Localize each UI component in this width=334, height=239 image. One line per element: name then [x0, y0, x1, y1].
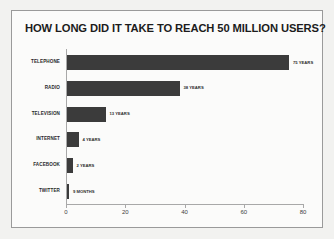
bar-category-label: FACEBOOK: [33, 162, 60, 167]
bar-value-label: 2 YEARS: [77, 163, 95, 168]
category-label-wrap: TELEVISION: [12, 102, 66, 128]
bar-twitter: [67, 184, 69, 199]
bar-category-label: RADIO: [45, 85, 60, 90]
bar-value-label: 75 YEARS: [293, 60, 313, 65]
bar-facebook: [67, 158, 73, 173]
bar-value-label: 13 YEARS: [110, 111, 130, 116]
chart-card: HOW LONG DID IT TAKE TO REACH 50 MILLION…: [11, 10, 323, 228]
x-axis-tick: [185, 205, 186, 208]
x-axis-tick-label: 40: [181, 209, 188, 215]
chart-title: HOW LONG DID IT TAKE TO REACH 50 MILLION…: [25, 22, 326, 34]
category-label-wrap: TELEPHONE: [12, 50, 66, 76]
bar-category-label: TELEVISION: [32, 111, 60, 116]
x-axis-tick: [125, 205, 126, 208]
x-axis-tick-label: 20: [122, 209, 129, 215]
y-axis-line: [66, 49, 67, 204]
bar-chart-plot-area: 0 20 40 60 80 TELEPHONE 75 YEARS RADIO 3…: [66, 49, 314, 211]
bar-telephone: [67, 55, 289, 70]
x-axis-tick: [303, 205, 304, 208]
bar-category-label: INTERNET: [36, 136, 60, 141]
bar-value-label: 4 YEARS: [83, 137, 101, 142]
bar-radio: [67, 81, 180, 96]
bar-category-label: TELEPHONE: [31, 59, 60, 64]
bar-category-label: TWITTER: [39, 188, 60, 193]
x-axis-tick-label: 0: [64, 209, 67, 215]
x-axis-tick: [66, 205, 67, 208]
category-label-wrap: FACEBOOK: [12, 153, 66, 179]
x-axis-tick: [244, 205, 245, 208]
bar-value-label: 9 MONTHS: [73, 189, 95, 194]
x-axis-tick-label: 80: [300, 209, 307, 215]
category-label-wrap: RADIO: [12, 76, 66, 102]
category-label-wrap: TWITTER: [12, 179, 66, 205]
bar-internet: [67, 132, 79, 147]
bar-value-label: 38 YEARS: [184, 85, 204, 90]
bar-television: [67, 107, 106, 122]
category-label-wrap: INTERNET: [12, 127, 66, 153]
x-axis-tick-label: 60: [240, 209, 247, 215]
